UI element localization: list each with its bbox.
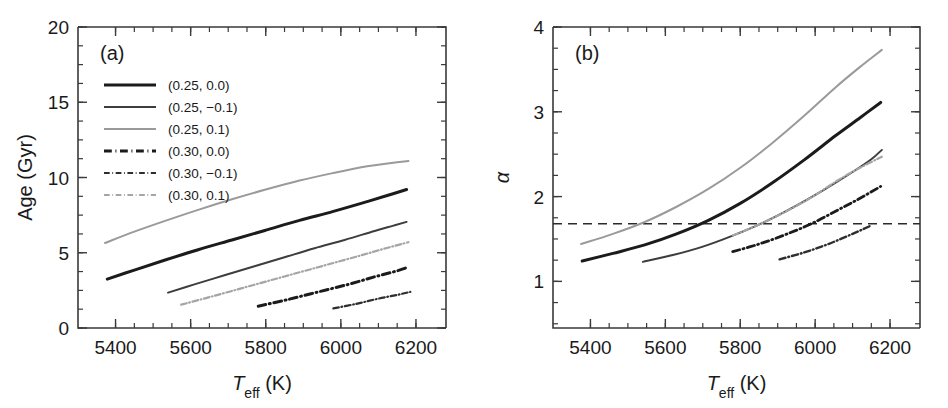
series-curve-3 [258, 267, 408, 306]
y-tick-label: 20 [48, 17, 69, 38]
x-tick-label: 5400 [569, 337, 611, 358]
chart-panel-b: 540056005800600062001234(b)αTeff (K) [474, 0, 948, 408]
x-tick-label: 5800 [719, 337, 761, 358]
panel-tag: (a) [100, 42, 124, 64]
y-tick-label: 10 [48, 168, 69, 189]
x-tick-label: 5800 [245, 337, 287, 358]
series-curve-2 [581, 50, 882, 244]
legend: (0.25, 0.0)(0.25, −0.1)(0.25, 0.1)(0.30,… [104, 78, 237, 203]
chart-svg-a: 5400560058006000620005101520(a)Age (Gyr)… [0, 0, 474, 408]
x-tick-label: 6200 [869, 337, 911, 358]
legend-label-4: (0.30, −0.1) [168, 166, 237, 181]
x-tick-label: 5400 [94, 337, 136, 358]
y-tick-label: 15 [48, 92, 69, 113]
curves-group [581, 50, 882, 262]
y-tick-label: 4 [533, 17, 544, 38]
legend-label-2: (0.25, 0.1) [168, 122, 230, 137]
legend-label-3: (0.30, 0.0) [168, 144, 230, 159]
series-curve-4 [333, 292, 410, 309]
y-tick-label: 2 [533, 187, 544, 208]
x-axis-label-subscript: eff [244, 385, 259, 401]
y-axis-label: Age (Gyr) [14, 134, 36, 221]
y-tick-label: 5 [58, 243, 69, 264]
x-tick-label: 6000 [794, 337, 836, 358]
y-tick-label: 1 [533, 271, 544, 292]
legend-label-5: (0.30, 0.1) [168, 188, 230, 203]
series-curve-3 [733, 186, 881, 251]
x-tick-label: 5600 [644, 337, 686, 358]
series-curve-5 [181, 242, 408, 304]
x-axis-label: Teff (K) [707, 372, 767, 401]
figure-canvas: 5400560058006000620005101520(a)Age (Gyr)… [0, 0, 948, 408]
chart-svg-b: 540056005800600062001234(b)αTeff (K) [474, 0, 948, 408]
x-axis-label: Teff (K) [232, 372, 292, 401]
chart-panel-a: 5400560058006000620005101520(a)Age (Gyr)… [0, 0, 474, 408]
x-tick-label: 6000 [320, 337, 362, 358]
curves-group [105, 161, 410, 308]
x-axis-label-subscript: eff [719, 385, 734, 401]
panel-tag: (b) [575, 42, 599, 64]
axis-frame-top-right [553, 27, 920, 328]
legend-label-0: (0.25, 0.0) [168, 78, 230, 93]
x-axis-label-unit: (K) [734, 372, 766, 394]
legend-label-1: (0.25, −0.1) [168, 100, 237, 115]
axis-frame [553, 27, 920, 328]
series-curve-1 [168, 222, 406, 293]
x-axis-label-unit: (K) [260, 372, 292, 394]
x-tick-label: 5600 [170, 337, 212, 358]
x-tick-label: 6200 [395, 337, 437, 358]
y-tick-label: 3 [533, 102, 544, 123]
y-axis-label: α [491, 171, 513, 183]
y-tick-label: 0 [58, 318, 69, 339]
